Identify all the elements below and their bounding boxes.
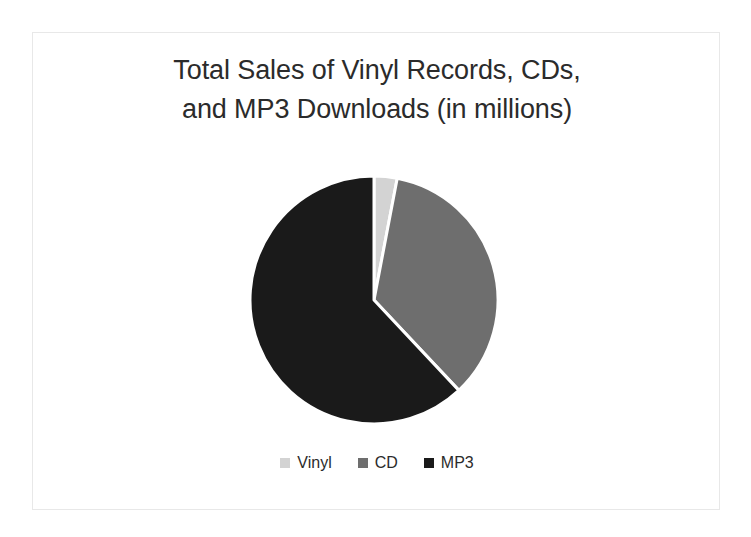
legend-label-mp3: MP3 [441,455,474,471]
legend-label-cd: CD [375,455,398,471]
legend-item-cd[interactable]: CD [358,455,398,471]
chart-legend: Vinyl CD MP3 [33,455,721,471]
pie-chart-svg [249,175,499,425]
pie-chart [249,175,499,425]
slide-canvas: Total Sales of Vinyl Records, CDs, and M… [0,0,751,537]
square-swatch-icon [280,458,290,468]
pie-chart-plot-area: Vinyl CD MP3 [33,33,721,511]
legend-label-vinyl: Vinyl [297,455,331,471]
slide-frame: Total Sales of Vinyl Records, CDs, and M… [32,32,720,510]
square-swatch-icon [358,458,368,468]
square-swatch-icon [424,458,434,468]
pie-slice-group [250,176,498,424]
legend-item-mp3[interactable]: MP3 [424,455,474,471]
legend-item-vinyl[interactable]: Vinyl [280,455,331,471]
